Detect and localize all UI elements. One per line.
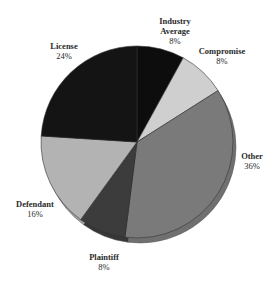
- pie-chart: [0, 0, 280, 283]
- label-plaintiff: Plaintiff 8%: [89, 252, 119, 272]
- label-compromise: Compromise 8%: [199, 46, 246, 66]
- label-license: License 24%: [50, 41, 77, 61]
- label-industry-average: Industry Average 8%: [159, 16, 191, 46]
- label-other: Other 36%: [241, 151, 263, 171]
- label-defendant: Defendant 16%: [16, 199, 54, 219]
- pie-slices: [41, 46, 233, 238]
